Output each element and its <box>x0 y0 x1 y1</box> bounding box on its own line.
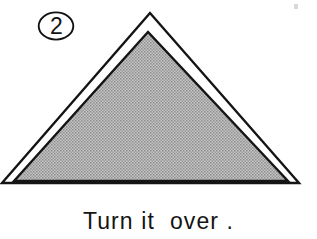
triangle-inner-face <box>14 32 288 181</box>
caption-text: Turn it over . <box>0 206 317 236</box>
scan-speck-artifact-icon <box>294 4 298 9</box>
instruction-figure-page: 2 Turn it over . <box>0 0 317 239</box>
paper-triangle-illustration <box>0 0 317 195</box>
triangle-drawing <box>0 0 317 195</box>
